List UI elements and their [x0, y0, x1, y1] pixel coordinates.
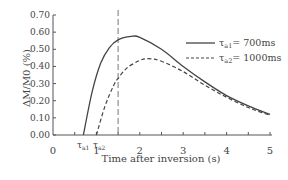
series-dashed-line [96, 59, 270, 135]
x-tick-label: 0 [50, 145, 56, 156]
x-tick-label: 5 [267, 145, 273, 156]
line-chart: 0.000.100.200.300.400.500.600.70 012345 … [0, 0, 288, 180]
y-tick-label: 0.30 [30, 79, 50, 89]
y-axis: 0.000.100.200.300.400.500.600.70 [30, 10, 56, 140]
y-tick-label: 0.10 [30, 113, 50, 123]
y-tick-label: 0.40 [30, 61, 50, 71]
y-tick-label: 0.60 [30, 27, 50, 37]
y-tick-label: 0.50 [30, 44, 50, 54]
y-tick-label: 0.00 [30, 130, 50, 140]
series-solid-line [83, 36, 270, 135]
y-tick-label: 0.20 [30, 96, 50, 106]
y-axis-label: ΔM/M0 (%) [21, 49, 32, 107]
tau-a2-label: τa2 [93, 140, 106, 151]
legend-item-2: τa2= 1000ms [219, 52, 281, 65]
legend: τa1= 700ms τa2= 1000ms [186, 37, 281, 65]
legend-item-1: τa1= 700ms [219, 37, 275, 50]
x-axis-label: Time after inversion (s) [102, 153, 221, 164]
y-tick-label: 0.70 [30, 10, 50, 20]
x-tick-label: 4 [223, 145, 229, 156]
tau-a1-label: τa1 [77, 140, 89, 151]
